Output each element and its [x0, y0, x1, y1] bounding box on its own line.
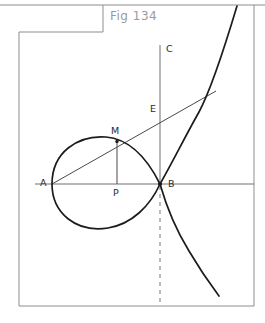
curve-loop: [52, 137, 160, 229]
figure-drawing: [0, 0, 265, 323]
point-label-e: E: [150, 104, 156, 114]
point-label-b: B: [168, 179, 175, 189]
point-label-p: P: [113, 188, 119, 198]
node-point-marker-b: [158, 182, 162, 186]
figure-container: Fig 134 A B C E M P: [0, 0, 265, 323]
chord-line-AME: [52, 91, 216, 184]
curve-upper-branch: [160, 6, 237, 184]
point-label-c: C: [166, 44, 173, 54]
figure-frame-border: [0, 5, 265, 306]
point-label-m: M: [111, 126, 119, 136]
point-marker-m: [115, 140, 118, 143]
curve-lower-branch: [160, 184, 219, 296]
point-label-a: A: [40, 178, 47, 188]
figure-caption: Fig 134: [110, 10, 157, 22]
